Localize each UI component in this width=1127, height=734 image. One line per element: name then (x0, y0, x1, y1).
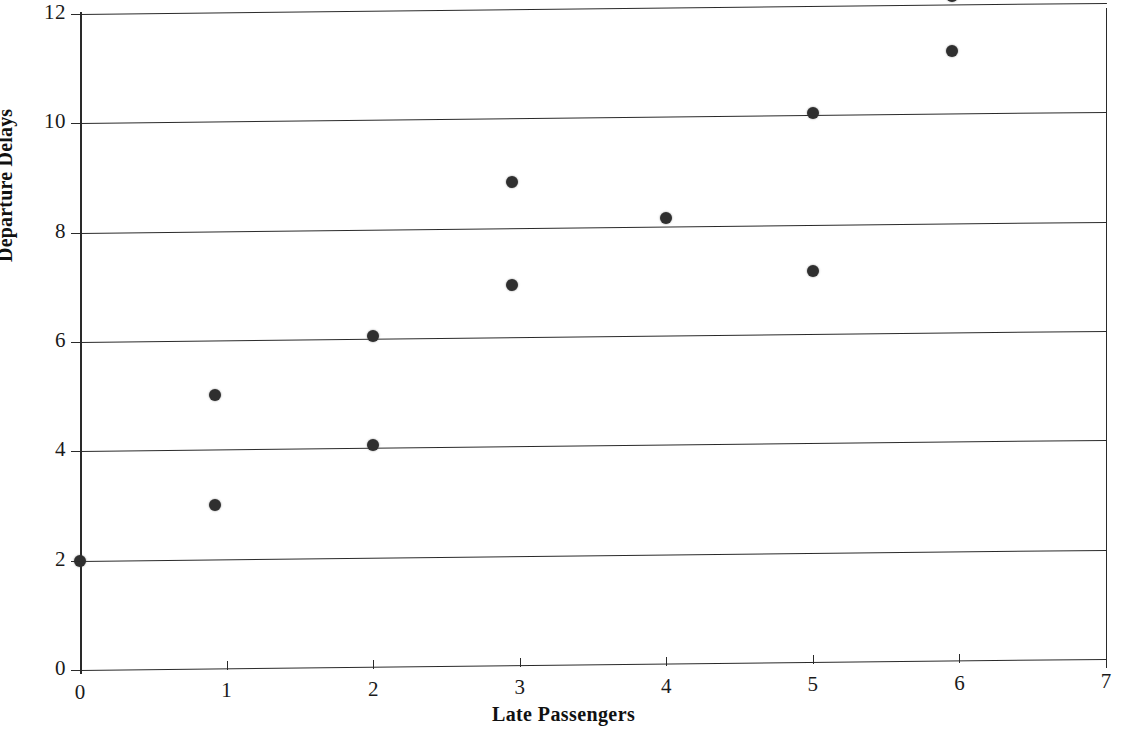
x-tick-label-4: 4 (646, 674, 686, 699)
data-point (367, 439, 379, 451)
gridline-y-8 (80, 222, 1107, 234)
y-tick-4 (71, 451, 80, 452)
x-tick-5 (813, 655, 814, 664)
gridline-y-12 (80, 3, 1107, 15)
y-tick-label-4: 4 (55, 437, 66, 462)
data-point (946, 45, 958, 57)
x-tick-6 (959, 654, 960, 663)
x-tick-1 (227, 661, 228, 670)
data-point (807, 107, 819, 119)
y-tick-2 (71, 561, 80, 562)
y-tick-label-10: 10 (44, 109, 66, 134)
x-tick-label-6: 6 (939, 671, 979, 696)
y-tick-label-2: 2 (55, 547, 66, 572)
x-tick-label-7: 7 (1086, 669, 1126, 694)
x-tick-label-2: 2 (353, 677, 393, 702)
y-tick-label-0: 0 (55, 656, 66, 681)
data-point (660, 212, 672, 224)
data-point (946, 0, 958, 2)
x-tick-4 (666, 657, 667, 666)
data-point (506, 279, 518, 291)
x-tick-3 (520, 658, 521, 667)
x-tick-0 (80, 663, 81, 672)
x-tick-label-0: 0 (60, 680, 100, 705)
y-axis-title: Departure Delays (0, 109, 17, 262)
x-tick-label-1: 1 (207, 678, 247, 703)
data-point (209, 389, 221, 401)
chart-page: 024681012 01234567 Departure Delays Late… (0, 0, 1127, 734)
y-tick-label-12: 12 (44, 0, 66, 25)
plot-area (80, 14, 1107, 670)
gridline-y-10 (80, 112, 1107, 124)
y-tick-10 (71, 123, 80, 124)
gridline-y-4 (80, 440, 1107, 452)
x-tick-label-5: 5 (793, 672, 833, 697)
x-tick-2 (373, 660, 374, 669)
data-point (506, 176, 518, 188)
y-tick-6 (71, 342, 80, 343)
y-tick-12 (71, 14, 80, 15)
y-tick-8 (71, 233, 80, 234)
y-tick-0 (71, 670, 80, 671)
y-tick-label-6: 6 (55, 328, 66, 353)
data-point (367, 330, 379, 342)
data-point (807, 265, 819, 277)
x-tick-label-3: 3 (500, 675, 540, 700)
data-point (209, 499, 221, 511)
y-tick-label-8: 8 (55, 219, 66, 244)
gridline-y-6 (80, 331, 1107, 343)
x-tick-7 (1106, 652, 1107, 661)
gridline-y-2 (80, 550, 1107, 562)
x-axis-title: Late Passengers (0, 703, 1127, 726)
